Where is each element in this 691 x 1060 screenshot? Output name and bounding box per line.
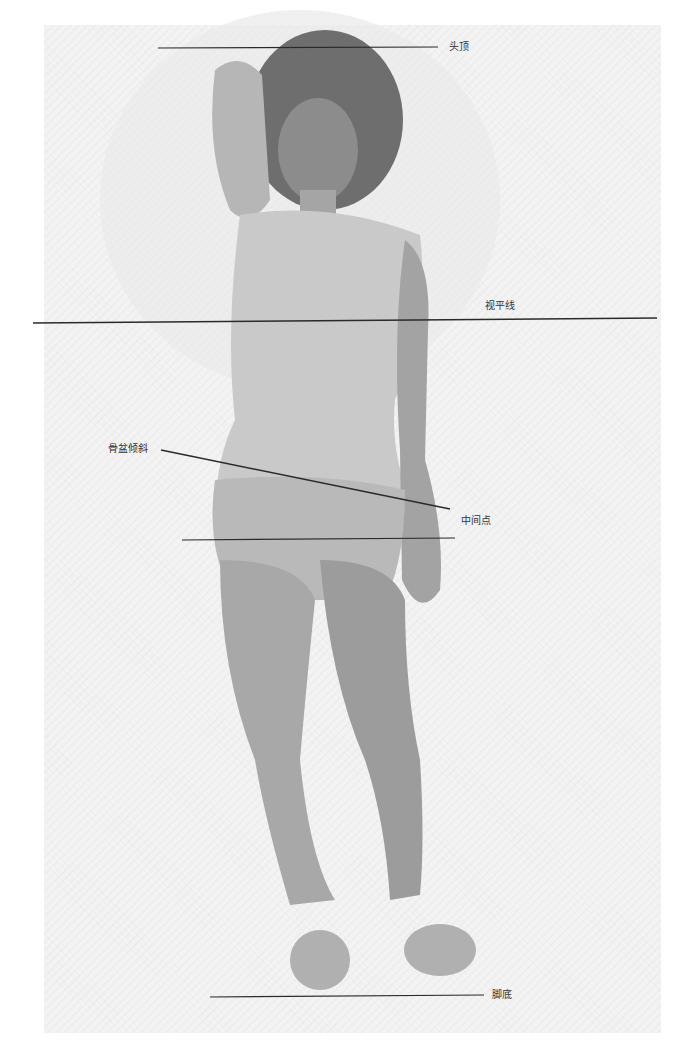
figure-drawing [0,0,691,1060]
top-of-head-label: 头顶 [449,41,469,53]
eye-level-label: 视平线 [485,300,515,312]
head-shape [278,98,358,202]
left-leg-shape [220,560,335,905]
pelvic-tilt-label: 骨盆倾斜 [108,443,148,455]
bottom-of-feet-label: 脚底 [492,989,512,1001]
left-foot-shape [290,930,350,990]
right-foot-shape [404,924,476,976]
right-leg-shape [320,560,423,900]
midpoint-label: 中间点 [461,515,491,527]
